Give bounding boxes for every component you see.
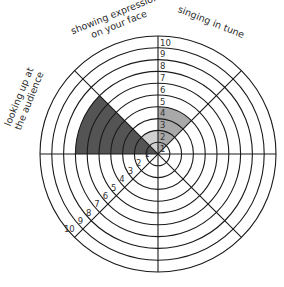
tick-label-vertical: 8 — [160, 61, 165, 71]
tick-label-vertical: 2 — [160, 132, 165, 142]
tick-label-diagonal: 8 — [86, 208, 91, 218]
tick-label-diagonal: 2 — [136, 158, 141, 168]
tick-label-vertical: 9 — [160, 49, 165, 59]
svg-text:singing in tune: singing in tune — [176, 3, 246, 40]
shaded-sectors — [75, 96, 191, 154]
tick-label-diagonal: 4 — [119, 174, 124, 184]
category-label: looking up atthe audience — [2, 66, 46, 132]
tick-label-vertical: 6 — [160, 85, 165, 95]
tick-label-diagonal: 1 — [144, 149, 149, 159]
tick-label-vertical: 7 — [160, 73, 165, 83]
tick-label-diagonal: 3 — [128, 166, 133, 176]
tick-label-vertical: 1 — [160, 144, 165, 154]
tick-label-vertical: 4 — [160, 108, 165, 118]
tick-label-diagonal: 10 — [64, 224, 75, 234]
spokes — [40, 36, 276, 272]
tick-label-vertical: 5 — [160, 97, 165, 107]
tick-label-diagonal: 5 — [111, 183, 116, 193]
tick-label-diagonal: 7 — [94, 199, 99, 209]
tick-label-vertical: 3 — [160, 120, 165, 130]
tick-label-diagonal: 6 — [103, 191, 108, 201]
category-label: showing expressionon your face — [69, 0, 164, 46]
tick-label-diagonal: 9 — [78, 216, 83, 226]
tick-label-vertical: 10 — [160, 38, 171, 48]
radial-rating-chart: 1234567891012345678910 singing in tunesh… — [0, 0, 284, 287]
category-label: singing in tune — [176, 3, 246, 40]
